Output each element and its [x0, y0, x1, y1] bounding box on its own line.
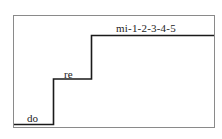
staircase-diagram: do re mi-1-2-3-4-5 — [0, 0, 222, 139]
step-label-re: re — [64, 69, 73, 80]
step-label-mi: mi-1-2-3-4-5 — [116, 23, 176, 34]
step-label-do: do — [27, 113, 38, 124]
